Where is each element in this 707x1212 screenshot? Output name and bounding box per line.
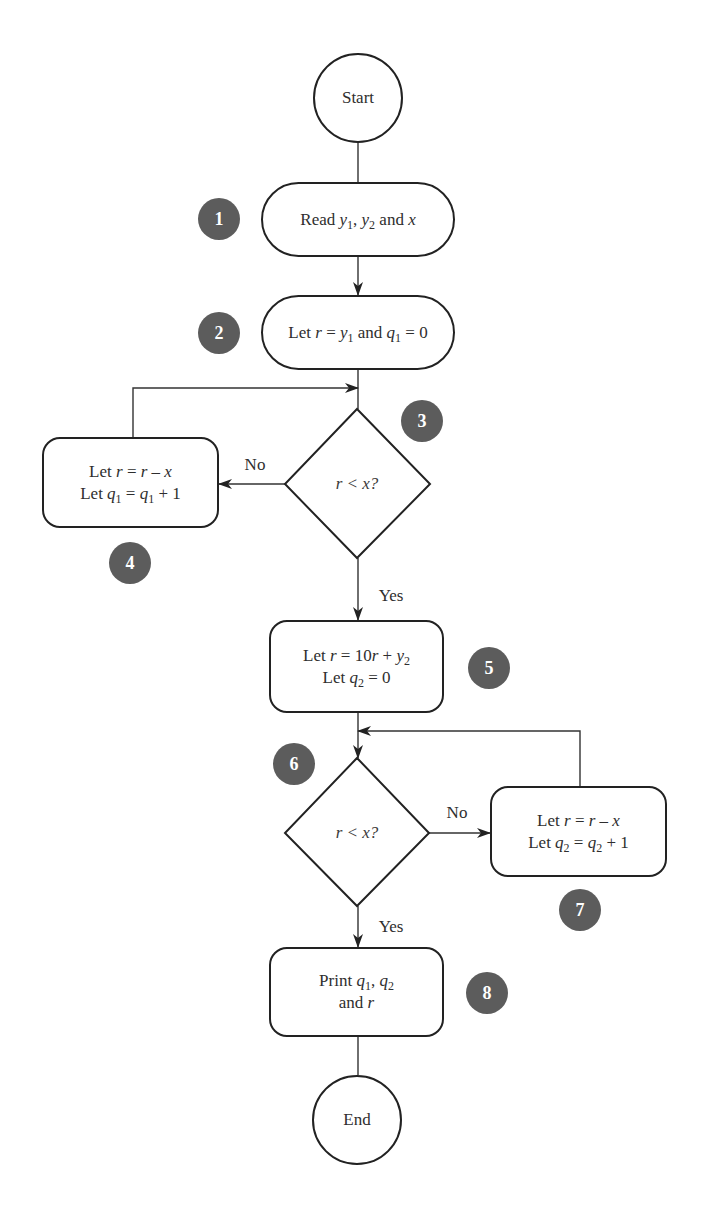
print-output-node: Print q1, q2 and r [269, 947, 444, 1037]
loop1-subtract-node: Let r = r – x Let q1 = q1 + 1 [42, 437, 219, 528]
read-inputs-text: Read y1, y2 and x [300, 209, 415, 231]
end-terminal: End [312, 1075, 402, 1165]
step-badge-7: 7 [559, 889, 601, 931]
connector-loop2-back [358, 731, 580, 786]
initialize-text: Let r = y1 and q1 = 0 [288, 322, 427, 344]
decision-1-no-label: No [245, 455, 266, 475]
step-badge-2: 2 [198, 312, 240, 354]
shift-remainder-node: Let r = 10r + y2 Let q2 = 0 [269, 620, 444, 713]
step-badge-6: 6 [273, 743, 315, 785]
decision-2-condition: r < x? [336, 823, 379, 843]
decision-2-yes-label: Yes [379, 917, 404, 937]
initialize-node: Let r = y1 and q1 = 0 [261, 295, 455, 370]
loop2-line2: Let q2 = q2 + 1 [528, 832, 629, 854]
loop1-line2: Let q1 = q1 + 1 [80, 483, 181, 505]
loop2-subtract-node: Let r = r – x Let q2 = q2 + 1 [490, 786, 667, 877]
shift-line1: Let r = 10r + y2 [303, 645, 410, 667]
step-badge-8: 8 [466, 972, 508, 1014]
print-line2: and r [339, 992, 374, 1014]
start-terminal: Start [313, 53, 403, 143]
shift-line2: Let q2 = 0 [323, 667, 391, 689]
decision-1-yes-label: Yes [379, 586, 404, 606]
step-badge-4: 4 [109, 542, 151, 584]
decision-1-condition: r < x? [336, 474, 379, 494]
step-badge-1: 1 [198, 198, 240, 240]
end-label: End [343, 1109, 370, 1131]
read-inputs-node: Read y1, y2 and x [261, 182, 455, 257]
step-badge-5: 5 [468, 647, 510, 689]
print-line1: Print q1, q2 [319, 970, 394, 992]
step-badge-3: 3 [401, 400, 443, 442]
decision-2-no-label: No [447, 803, 468, 823]
connector-loop1-back [133, 388, 358, 437]
start-label: Start [342, 87, 374, 109]
loop2-line1: Let r = r – x [537, 810, 620, 832]
loop1-line1: Let r = r – x [89, 461, 172, 483]
